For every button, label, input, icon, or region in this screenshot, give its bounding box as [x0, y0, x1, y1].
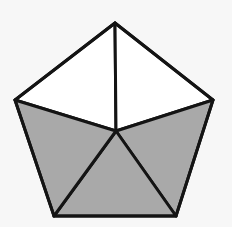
pentagon-figure — [0, 0, 232, 227]
